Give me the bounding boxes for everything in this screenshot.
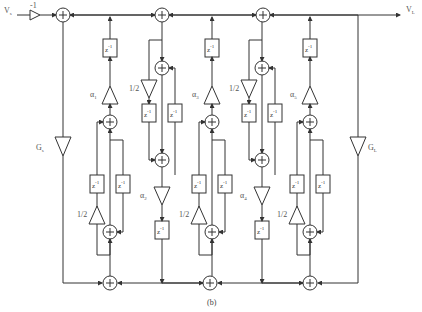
half-label: 1/2 [229,84,239,93]
wire [219,193,225,232]
figure-caption: (b) [207,298,217,307]
input-gain-triangle [30,10,40,20]
source-conductance-label: Gs [36,143,44,153]
adder-bottom-1 [103,276,117,290]
wire [169,68,175,104]
wire [269,68,275,104]
source-branch [55,22,102,283]
half-label: 1/2 [129,84,139,93]
half-label: 1/2 [179,210,189,219]
adder-bottom-2 [203,276,217,290]
alpha-5-label: α5 [290,90,297,100]
half-triangle [89,206,105,224]
half-label: 1/2 [277,210,287,219]
wire [110,140,123,175]
adder-bottom-3 [303,276,317,290]
load-conductance-label: GL [368,143,377,153]
wire [117,193,123,232]
source-voltage-label: Vs [4,6,12,16]
wire [297,122,303,214]
alpha-2-label: α2 [140,191,147,201]
half-triangle [141,80,157,98]
wire [310,140,323,175]
alpha-3-label: α3 [192,90,199,100]
half-triangle [191,206,207,224]
adder-top-3 [256,8,270,22]
alpha-5-triangle [302,86,318,104]
alpha-2-triangle [154,187,170,205]
wire [317,193,323,232]
alpha-3-triangle [204,86,220,104]
load-conductance-triangle [350,137,366,156]
wire [249,122,255,160]
wire [199,122,205,214]
adder-top-1 [56,8,70,22]
alpha-1-triangle [102,86,118,104]
half-triangle [241,80,257,98]
alpha-1-label: α1 [90,90,97,100]
adder-top-2 [155,8,169,22]
half-triangle [289,206,305,224]
alpha-4-label: α4 [240,191,247,201]
alpha-4-triangle [254,187,270,205]
wire [149,122,155,160]
source-conductance-triangle [55,137,71,156]
signal-flow-diagram: Vs -1 VL Gs GL z-1α1z-11/2z-11/2z-1z-1α2… [0,0,422,312]
wire [212,140,225,175]
wire [97,122,103,214]
load-voltage-label: VL [406,5,415,15]
top-bus [17,10,400,20]
half-label: 1/2 [77,210,87,219]
input-gain-label: -1 [30,1,37,10]
load-branch [318,15,366,283]
